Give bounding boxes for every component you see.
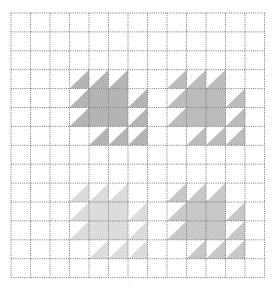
full-square	[206, 221, 226, 240]
quilt-grid-diagram	[0, 0, 274, 290]
half-square-triangle	[206, 126, 226, 145]
half-square-triangle	[70, 108, 90, 127]
half-square-triangle	[226, 221, 246, 240]
footer-mark: ··	[128, 281, 140, 285]
half-square-triangle	[128, 240, 148, 259]
half-square-triangle	[206, 240, 226, 259]
half-square-triangle	[167, 202, 187, 221]
full-square	[187, 89, 207, 108]
full-square	[89, 108, 109, 127]
full-square	[206, 202, 226, 221]
half-square-triangle	[89, 240, 109, 259]
half-square-triangle	[128, 202, 148, 221]
half-square-triangle	[128, 221, 148, 240]
half-square-triangle	[187, 183, 207, 202]
half-square-triangle	[128, 108, 148, 127]
half-square-triangle	[128, 126, 148, 145]
full-square	[109, 221, 129, 240]
half-square-triangle	[187, 70, 207, 89]
half-square-triangle	[187, 126, 207, 145]
half-square-triangle	[70, 221, 90, 240]
half-square-triangle	[70, 89, 90, 108]
half-square-triangle	[226, 108, 246, 127]
full-square	[89, 202, 109, 221]
half-square-triangle	[167, 89, 187, 108]
half-square-triangle	[226, 126, 246, 145]
full-square	[187, 221, 207, 240]
half-square-triangle	[226, 240, 246, 259]
half-square-triangle	[70, 70, 90, 89]
half-square-triangle	[109, 183, 129, 202]
half-square-triangle	[167, 183, 187, 202]
half-square-triangle	[167, 108, 187, 127]
half-square-triangle	[89, 70, 109, 89]
half-square-triangle	[109, 70, 129, 89]
full-square	[187, 202, 207, 221]
half-square-triangle	[167, 70, 187, 89]
half-square-triangle	[187, 240, 207, 259]
half-square-triangle	[128, 89, 148, 108]
half-square-triangle	[206, 183, 226, 202]
full-square	[109, 202, 129, 221]
half-square-triangle	[226, 89, 246, 108]
half-square-triangle	[70, 202, 90, 221]
half-square-triangle	[89, 183, 109, 202]
full-square	[206, 89, 226, 108]
full-square	[89, 89, 109, 108]
full-square	[109, 108, 129, 127]
half-square-triangle	[167, 221, 187, 240]
half-square-triangle	[109, 240, 129, 259]
half-square-triangle	[109, 126, 129, 145]
full-square	[89, 221, 109, 240]
full-square	[206, 108, 226, 127]
half-square-triangle	[70, 183, 90, 202]
half-square-triangle	[89, 126, 109, 145]
full-square	[187, 108, 207, 127]
full-square	[109, 89, 129, 108]
half-square-triangle	[206, 70, 226, 89]
half-square-triangle	[226, 202, 246, 221]
